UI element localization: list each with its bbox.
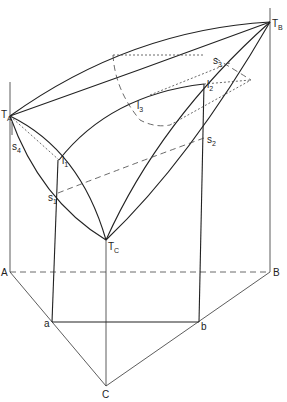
base-edge-BC xyxy=(106,272,270,386)
label-A: A xyxy=(1,267,8,278)
label-TB: TB xyxy=(272,18,283,31)
label-C: C xyxy=(102,389,109,400)
label-a: a xyxy=(44,318,50,329)
label-s3: s3 xyxy=(213,55,222,68)
label-TC: TC xyxy=(108,241,119,254)
label-B: B xyxy=(273,267,280,278)
label-b: b xyxy=(201,321,207,332)
label-s1: s1 xyxy=(48,192,57,205)
label-s4: s4 xyxy=(12,141,21,154)
solidus-AC xyxy=(10,116,106,240)
solidus-AB xyxy=(10,22,270,116)
label-s2: s2 xyxy=(207,134,216,147)
liquidus-AC xyxy=(10,116,106,240)
label-l3: l3 xyxy=(137,100,143,113)
solidus-section-s1-s2 xyxy=(58,138,204,193)
ternary-prism-diagram: TA TB TC l1 l2 l3 s1 s2 s3 s4 A B C a b xyxy=(0,0,287,402)
vertical-a xyxy=(52,160,58,322)
vertical-b xyxy=(199,84,204,322)
base-edge-AC xyxy=(10,272,106,386)
label-TA: TA xyxy=(1,109,12,122)
label-l1: l1 xyxy=(62,155,68,168)
liquidus-section-l1-l2 xyxy=(59,84,204,160)
